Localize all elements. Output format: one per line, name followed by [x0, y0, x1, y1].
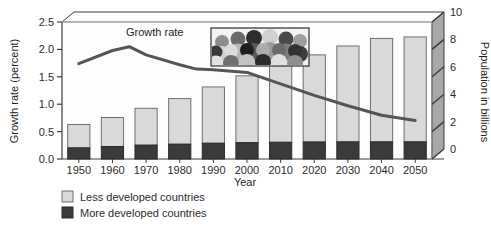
- bar-group: [169, 99, 191, 159]
- legend-label-more-developed: More developed countries: [80, 207, 207, 219]
- chart-canvas: 0.00.51.01.52.02.5 Growth rate (percent)…: [0, 0, 491, 229]
- left-axis-tick-label: 0.0: [39, 153, 54, 165]
- frame-right-wall: [432, 12, 444, 159]
- right-axis-tick-label: 10: [450, 6, 462, 18]
- bar-segment-less-developed: [101, 117, 123, 146]
- x-axis-tick-label: 2030: [336, 164, 360, 176]
- bar-segment-less-developed: [337, 46, 359, 142]
- growth-rate-annotation: Growth rate: [126, 26, 183, 38]
- bar-segment-less-developed: [202, 87, 224, 143]
- legend-swatch-more-developed: [62, 207, 73, 218]
- bar-segment-more-developed: [404, 142, 426, 159]
- x-axis-tick-label: 2040: [369, 164, 393, 176]
- bar-segment-more-developed: [303, 142, 325, 159]
- left-axis: 0.00.51.01.52.02.5 Growth rate (percent): [8, 16, 62, 165]
- x-axis-tick-label: 2020: [302, 164, 326, 176]
- x-axis-ticks: 1950196019701980199020002010202020302040…: [67, 159, 428, 176]
- bar-segment-more-developed: [169, 144, 191, 159]
- bar-segment-less-developed: [135, 108, 157, 145]
- x-axis-tick-label: 1970: [134, 164, 158, 176]
- bar-segment-more-developed: [370, 142, 392, 159]
- chart-legend: Less developed countries More developed …: [62, 191, 207, 219]
- x-axis-tick-label: 2050: [403, 164, 427, 176]
- bar-segment-less-developed: [169, 99, 191, 145]
- right-axis-tick-label: 8: [450, 33, 456, 45]
- bar-segment-less-developed: [236, 76, 258, 143]
- bar-segment-more-developed: [101, 147, 123, 159]
- x-axis-tick-label: 1980: [167, 164, 191, 176]
- bar-group: [404, 37, 426, 159]
- left-axis-title: Growth rate (percent): [8, 39, 20, 144]
- right-axis-tick-label: 6: [450, 61, 456, 73]
- frame-top-face: [62, 12, 444, 22]
- left-axis-tick-label: 2.0: [39, 43, 54, 55]
- crowd-photo-inset: [209, 28, 310, 71]
- left-axis-tick-label: 1.0: [39, 98, 54, 110]
- bar-segment-more-developed: [270, 142, 292, 159]
- right-axis-title: Population in billions: [479, 42, 491, 143]
- bar-group: [303, 55, 325, 159]
- bar-group: [202, 87, 224, 159]
- x-axis-tick-label: 1950: [67, 164, 91, 176]
- bar-segment-less-developed: [370, 38, 392, 141]
- bar-group: [370, 38, 392, 159]
- bar-segment-more-developed: [68, 148, 90, 159]
- bar-group: [236, 76, 258, 159]
- right-axis-tick-label: 4: [450, 88, 456, 100]
- legend-label-less-developed: Less developed countries: [80, 191, 205, 203]
- x-axis-tick-label: 2010: [268, 164, 292, 176]
- left-axis-tick-label: 2.5: [39, 16, 54, 28]
- population-growth-chart: 0.00.51.01.52.02.5 Growth rate (percent)…: [0, 0, 491, 229]
- x-axis-tick-label: 1960: [100, 164, 124, 176]
- bar-segment-more-developed: [337, 142, 359, 159]
- bar-segment-less-developed: [68, 124, 90, 147]
- left-axis-tick-label: 1.5: [39, 71, 54, 83]
- right-axis-tick-label: 0: [450, 143, 456, 155]
- bar-group: [101, 117, 123, 159]
- bar-segment-less-developed: [404, 37, 426, 142]
- bar-segment-less-developed: [270, 65, 292, 142]
- crowd-photo-image: [209, 29, 309, 71]
- bar-segment-more-developed: [135, 145, 157, 159]
- x-axis-tick-label: 1990: [201, 164, 225, 176]
- right-axis-tick-label: 2: [450, 116, 456, 128]
- legend-item-less-developed: Less developed countries: [62, 191, 205, 203]
- x-axis-title: Year: [234, 176, 257, 188]
- bar-group: [270, 65, 292, 159]
- legend-swatch-less-developed: [62, 191, 73, 202]
- legend-item-more-developed: More developed countries: [62, 207, 207, 219]
- bar-segment-more-developed: [236, 143, 258, 159]
- left-axis-tick-label: 0.5: [39, 126, 54, 138]
- bar-group: [68, 124, 90, 159]
- x-axis-tick-label: 2000: [235, 164, 259, 176]
- bar-segment-more-developed: [202, 143, 224, 159]
- bar-group: [135, 108, 157, 159]
- left-axis-ticks: 0.00.51.01.52.02.5: [39, 16, 62, 165]
